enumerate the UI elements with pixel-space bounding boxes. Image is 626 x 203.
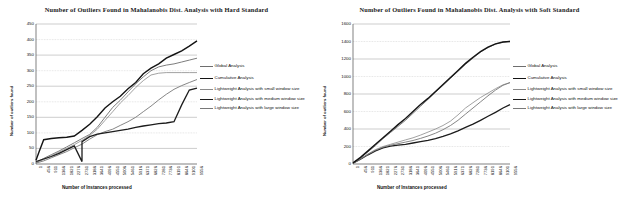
plot-area-hard: 450 400 350 300 250 200 150 100 50 0 Num… <box>0 0 313 203</box>
xtick-soft-2: 911 <box>370 166 375 182</box>
xtick-soft-17: 7736 <box>483 166 488 182</box>
xtick-hard-4: 1821 <box>69 166 74 182</box>
series-line-global-soft <box>353 41 510 163</box>
xtick-soft-13: 5916 <box>453 166 458 182</box>
xtick-soft-14: 6371 <box>460 166 465 182</box>
legend-item-lw-large-hard: Lightweight Analysis with large window s… <box>200 105 312 112</box>
xtick-hard-8: 3641 <box>99 166 104 182</box>
legend-line-swatch-cumulative-icon <box>513 75 526 81</box>
legend-item-global-hard: Global Analysis <box>200 63 312 70</box>
xtick-hard-20: 9101 <box>191 166 196 182</box>
ytick-hard-5: 250 <box>16 83 34 88</box>
legend-item-lw-small-soft: Lightweight Analysis with small window s… <box>513 86 625 93</box>
ytick-soft-1: 200 <box>329 144 351 149</box>
legend-label-cumulative: Cumulative Analysis <box>528 75 567 80</box>
legend-label-lw-large: Lightweight Analysis with large window s… <box>215 105 299 110</box>
legend-item-global-soft: Global Analysis <box>513 63 625 70</box>
legend-label-lw-large: Lightweight Analysis with large window s… <box>528 105 612 110</box>
legend-soft: Global Analysis Cumulative Analysis Ligh… <box>513 63 625 115</box>
xtick-soft-9: 4096 <box>423 166 428 182</box>
xtick-hard-9: 4096 <box>107 166 112 182</box>
legend-line-swatch-lw-large-icon <box>513 106 526 112</box>
legend-line-swatch-lw-small-icon <box>200 87 213 93</box>
xtick-hard-3: 1366 <box>61 166 66 182</box>
xtick-hard-19: 8646 <box>184 166 189 182</box>
series-line-cumulative-hard <box>36 41 197 161</box>
ytick-hard-2: 100 <box>16 130 34 135</box>
figure-two-charts: Number of Outliers Found in Mahalanobis … <box>0 0 626 203</box>
xtick-soft-20: 9101 <box>505 166 510 182</box>
xtick-hard-11: 5006 <box>122 166 127 182</box>
ytick-soft-7: 1400 <box>329 39 351 44</box>
xtick-hard-13: 5916 <box>138 166 143 182</box>
ytick-soft-8: 1600 <box>329 21 351 26</box>
xtick-hard-2: 911 <box>53 166 58 182</box>
xtick-hard-10: 4551 <box>115 166 120 182</box>
ytick-soft-0: 0 <box>329 161 351 166</box>
ytick-hard-9: 450 <box>16 21 34 26</box>
series-line-global-hard <box>36 58 197 162</box>
xtick-hard-17: 7736 <box>168 166 173 182</box>
x-axis-title-soft: Number of Instances processed <box>377 185 447 190</box>
xtick-soft-11: 5006 <box>438 166 443 182</box>
xtick-hard-18: 8191 <box>176 166 181 182</box>
xtick-hard-15: 6826 <box>153 166 158 182</box>
ytick-hard-1: 50 <box>16 145 34 150</box>
xtick-hard-14: 6371 <box>145 166 150 182</box>
xtick-hard-1: 456 <box>46 166 51 182</box>
ytick-soft-2: 400 <box>329 126 351 131</box>
legend-label-global: Global Analysis <box>528 63 558 68</box>
legend-line-swatch-lw-small-icon <box>513 87 526 93</box>
xtick-hard-0: 1 <box>38 166 43 182</box>
xtick-soft-12: 5461 <box>445 166 450 182</box>
gridlines-hard <box>36 24 197 148</box>
xtick-hard-21: 9556 <box>199 166 204 182</box>
xtick-hard-5: 2276 <box>76 166 81 182</box>
legend-line-swatch-lw-large-icon <box>200 106 213 112</box>
x-axis-title-hard: Number of Instances processed <box>62 185 132 190</box>
xtick-soft-8: 3641 <box>415 166 420 182</box>
legend-label-lw-medium: Lightweight Analysis with medium window … <box>528 96 618 101</box>
legend-item-lw-large-soft: Lightweight Analysis with large window s… <box>513 105 625 112</box>
legend-item-lw-medium-hard: Lightweight Analysis with medium window … <box>200 96 312 103</box>
xtick-soft-0: 1 <box>355 166 360 182</box>
xtick-soft-15: 6826 <box>468 166 473 182</box>
legend-hard: Global Analysis Cumulative Analysis Ligh… <box>200 63 312 115</box>
xtick-hard-7: 3186 <box>92 166 97 182</box>
ytick-hard-0: 0 <box>16 161 34 166</box>
legend-line-swatch-global-icon <box>513 64 526 70</box>
legend-item-cumulative-soft: Cumulative Analysis <box>513 75 625 82</box>
xtick-soft-18: 8191 <box>490 166 495 182</box>
ytick-hard-7: 350 <box>16 52 34 57</box>
legend-label-lw-medium: Lightweight Analysis with medium window … <box>215 96 305 101</box>
legend-line-swatch-global-icon <box>200 64 213 70</box>
legend-label-global: Global Analysis <box>215 63 245 68</box>
chart-panel-soft-standard: Number of Outliers Found in Mahalanobis … <box>313 0 626 203</box>
xtick-soft-1: 456 <box>363 166 368 182</box>
legend-item-lw-medium-soft: Lightweight Analysis with medium window … <box>513 96 625 103</box>
y-axis-title-soft: Number of outliers found <box>322 86 327 136</box>
ytick-soft-5: 1000 <box>329 74 351 79</box>
xtick-soft-19: 8646 <box>498 166 503 182</box>
legend-line-swatch-cumulative-icon <box>200 75 213 81</box>
legend-item-lw-small-hard: Lightweight Analysis with small window s… <box>200 86 312 93</box>
legend-line-swatch-lw-medium-icon <box>200 96 213 102</box>
xtick-hard-16: 7281 <box>161 166 166 182</box>
ytick-soft-4: 800 <box>329 91 351 96</box>
xtick-soft-4: 1821 <box>385 166 390 182</box>
chart-panel-hard-standard: Number of Outliers Found in Mahalanobis … <box>0 0 313 203</box>
ytick-hard-3: 150 <box>16 114 34 119</box>
xtick-soft-5: 2276 <box>393 166 398 182</box>
gridlines-soft <box>353 24 510 147</box>
xtick-hard-6: 2731 <box>84 166 89 182</box>
legend-label-cumulative: Cumulative Analysis <box>215 75 254 80</box>
ytick-hard-4: 200 <box>16 99 34 104</box>
legend-line-swatch-lw-medium-icon <box>513 96 526 102</box>
legend-item-cumulative-hard: Cumulative Analysis <box>200 75 312 82</box>
xtick-hard-12: 5461 <box>130 166 135 182</box>
legend-label-lw-small: Lightweight Analysis with small window s… <box>215 86 300 91</box>
legend-label-lw-small: Lightweight Analysis with small window s… <box>528 86 613 91</box>
xtick-soft-10: 4551 <box>430 166 435 182</box>
xtick-soft-21: 9556 <box>513 166 518 182</box>
plot-area-soft: 1600 1400 1200 1000 800 600 400 200 0 Nu… <box>313 0 626 203</box>
